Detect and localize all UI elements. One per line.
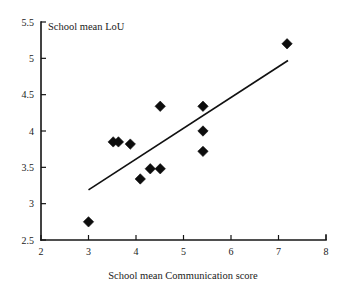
axes — [41, 22, 326, 240]
scatter-chart-figure: 2345678 2.533.544.555.5 School mean LoU … — [0, 0, 342, 294]
x-axis-tick-labels: 2345678 — [39, 246, 329, 257]
y-tick-label: 4 — [29, 126, 34, 137]
data-point-marker — [145, 164, 155, 174]
y-tick-label: 3.5 — [22, 162, 35, 173]
x-tick-label: 8 — [324, 246, 329, 257]
x-axis-title: School mean Communication score — [108, 270, 258, 281]
x-tick-label: 4 — [134, 246, 139, 257]
data-point-marker — [198, 101, 208, 111]
x-tick-label: 5 — [181, 246, 186, 257]
y-tick-label: 5.5 — [22, 17, 35, 28]
trend-line — [89, 61, 289, 190]
regression-line — [89, 61, 289, 190]
y-tick-label: 2.5 — [22, 235, 35, 246]
y-axis-tick-labels: 2.533.544.555.5 — [22, 17, 35, 246]
data-point-marker — [125, 139, 135, 149]
x-tick-label: 6 — [229, 246, 234, 257]
y-tick-label: 4.5 — [22, 89, 35, 100]
data-point-marker — [83, 217, 93, 227]
y-tick-label: 5 — [29, 53, 34, 64]
x-tick-label: 2 — [39, 246, 44, 257]
data-point-marker — [155, 101, 165, 111]
chart-title: School mean LoU — [48, 21, 125, 32]
x-tick-label: 3 — [86, 246, 91, 257]
data-point-marker — [198, 146, 208, 156]
data-point-marker — [155, 164, 165, 174]
y-tick-label: 3 — [29, 198, 34, 209]
data-points — [83, 39, 292, 227]
data-point-marker — [198, 126, 208, 136]
x-tick-label: 7 — [276, 246, 281, 257]
data-point-marker — [282, 39, 292, 49]
data-point-marker — [135, 174, 145, 184]
plot-area: 2345678 2.533.544.555.5 School mean LoU … — [0, 0, 342, 294]
